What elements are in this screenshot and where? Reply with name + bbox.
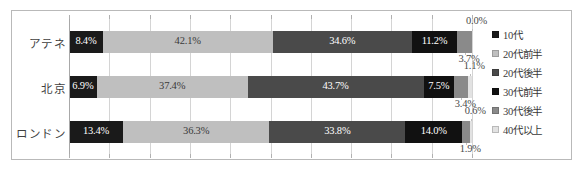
data-label: 13.4% [83, 126, 109, 137]
label-leader-line [466, 143, 467, 145]
bar-segment[interactable]: 8.4% [69, 31, 103, 53]
bar-row[interactable]: 8.4%42.1%34.6%11.2%3.7%0.0% [69, 31, 472, 53]
legend-swatch-icon [492, 107, 499, 114]
axis-tick [150, 15, 151, 19]
category-label: 北京 [41, 80, 66, 96]
label-leader-line [471, 119, 472, 121]
data-label: 37.4% [159, 81, 185, 92]
legend-label: 20代後半 [503, 65, 542, 80]
legend-label: 40代以上 [503, 122, 542, 137]
data-label: 34.6% [329, 36, 355, 47]
bar-segment[interactable]: 36.3% [123, 121, 269, 143]
axis-tick [311, 15, 312, 19]
stacked-bar[interactable]: 8.4%42.1%34.6%11.2% [69, 31, 472, 53]
gridline [472, 19, 473, 154]
bar-segment[interactable]: 43.7% [248, 76, 424, 98]
label-leader-line [470, 74, 471, 76]
legend-item[interactable]: 30代後半 [492, 101, 568, 120]
bar-segment[interactable]: 42.1% [103, 31, 273, 53]
bar-segment[interactable]: 37.4% [97, 76, 248, 98]
axis-tick [109, 15, 110, 19]
axis-tick [190, 15, 191, 19]
data-label: 42.1% [175, 36, 201, 47]
data-label: 36.3% [183, 126, 209, 137]
legend-item[interactable]: 40代以上 [492, 120, 568, 139]
legend-label: 30代前半 [503, 84, 542, 99]
bar-segment[interactable]: 13.4% [69, 121, 123, 143]
plot-area: 8.4%42.1%34.6%11.2%3.7%0.0%6.9%37.4%43.7… [69, 19, 472, 154]
axis-tick [432, 15, 433, 19]
category-axis-labels: アテネ北京ロンドン [12, 19, 66, 154]
data-label: 43.7% [323, 81, 349, 92]
bar-row[interactable]: 13.4%36.3%33.8%14.0%1.9%0.6% [69, 121, 472, 143]
data-label-callout: 1.1% [464, 61, 485, 72]
data-label: 11.2% [422, 36, 448, 47]
bar-segment[interactable]: 14.0% [405, 121, 461, 143]
chart-frame: アテネ北京ロンドン 8.4%42.1%34.6%11.2%3.7%0.0%6.9… [11, 10, 572, 160]
axis-tick [391, 15, 392, 19]
data-label: 7.5% [428, 81, 449, 92]
bar-segment[interactable] [462, 121, 470, 143]
axis-tick [351, 154, 352, 158]
axis-tick [109, 154, 110, 158]
legend-item[interactable]: 10代 [492, 25, 568, 44]
bar-segment[interactable]: 6.9% [69, 76, 97, 98]
bar-segment[interactable] [457, 31, 472, 53]
chart-legend: 10代20代前半20代後半30代前半30代後半40代以上 [492, 25, 568, 139]
bar-row[interactable]: 6.9%37.4%43.7%7.5%3.4%1.1% [69, 76, 472, 98]
bar-segment[interactable] [470, 121, 472, 143]
legend-swatch-icon [492, 126, 499, 133]
axis-tick [150, 154, 151, 158]
axis-tick [351, 15, 352, 19]
legend-swatch-icon [492, 88, 499, 95]
stacked-bar[interactable]: 6.9%37.4%43.7%7.5% [69, 76, 472, 98]
axis-tick [230, 15, 231, 19]
legend-label: 30代後半 [503, 103, 542, 118]
axis-tick [472, 154, 473, 158]
bar-segment[interactable]: 33.8% [269, 121, 405, 143]
bar-segment[interactable]: 11.2% [412, 31, 457, 53]
axis-tick [69, 154, 70, 158]
legend-swatch-icon [492, 69, 499, 76]
data-label-callout: 1.9% [460, 144, 481, 155]
bar-segment[interactable]: 7.5% [424, 76, 454, 98]
bar-segment[interactable] [468, 76, 472, 98]
axis-tick [190, 154, 191, 158]
axis-tick [391, 154, 392, 158]
data-label-callout: 0.0% [466, 16, 487, 27]
data-label: 6.9% [72, 81, 93, 92]
legend-swatch-icon [492, 50, 499, 57]
data-label-callout: 0.6% [465, 106, 486, 117]
bar-segment[interactable] [454, 76, 468, 98]
axis-tick [230, 154, 231, 158]
label-leader-line [465, 53, 466, 55]
category-label: ロンドン [16, 125, 66, 141]
axis-tick [271, 154, 272, 158]
data-label: 33.8% [324, 126, 350, 137]
axis-tick [311, 154, 312, 158]
stacked-bar[interactable]: 13.4%36.3%33.8%14.0% [69, 121, 472, 143]
label-leader-line [472, 29, 473, 31]
bar-segment[interactable]: 34.6% [273, 31, 412, 53]
data-label: 14.0% [421, 126, 447, 137]
legend-label: 10代 [503, 27, 523, 42]
data-label: 8.4% [75, 36, 96, 47]
legend-label: 20代前半 [503, 46, 542, 61]
axis-tick [271, 15, 272, 19]
category-label: アテネ [29, 35, 67, 51]
legend-item[interactable]: 20代前半 [492, 44, 568, 63]
legend-swatch-icon [492, 31, 499, 38]
value-axis-line [69, 19, 70, 154]
legend-item[interactable]: 20代後半 [492, 63, 568, 82]
axis-tick [432, 154, 433, 158]
label-leader-line [461, 98, 462, 100]
legend-item[interactable]: 30代前半 [492, 82, 568, 101]
